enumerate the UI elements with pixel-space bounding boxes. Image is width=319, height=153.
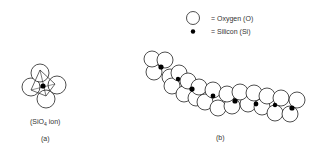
silicate-chain <box>144 51 305 122</box>
legend-symbols <box>187 12 200 34</box>
silicon-legend-icon <box>191 29 195 33</box>
oxygen-legend-icon <box>187 12 200 25</box>
sio4-ion-label: (SiO4 ion) <box>30 118 60 127</box>
silicate-diagram <box>0 0 319 153</box>
silicon-legend-label: = Silicon (Si) <box>211 28 250 35</box>
sio4-ion <box>22 64 66 108</box>
oxygen-legend-label: = Oxygen (O) <box>211 15 253 22</box>
panel-a-caption: (a) <box>41 135 50 142</box>
panel-b-caption: (b) <box>216 134 225 141</box>
sio4-label-prefix: (SiO <box>30 118 44 125</box>
sio4-label-suffix: ion) <box>47 118 61 125</box>
